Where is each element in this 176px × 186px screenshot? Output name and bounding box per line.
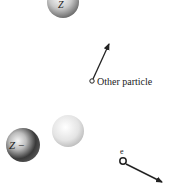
other-particle: Other particle [90, 44, 153, 87]
other-particle-label: Other particle [97, 76, 153, 87]
particle-dot-icon [90, 79, 94, 83]
velocity-arrow-icon [93, 44, 109, 79]
neutral-atom [52, 115, 84, 147]
electron-label: e [120, 147, 124, 156]
electron-dot-icon [120, 158, 126, 164]
electron: e [120, 147, 162, 182]
particle-diagram: Z Other particle Z − e [0, 0, 176, 186]
sphere-icon [52, 115, 84, 147]
nucleus-top-label: Z [58, 0, 64, 10]
velocity-arrow-icon [126, 164, 162, 182]
ion-label: Z − [9, 139, 25, 151]
nucleus-top: Z [47, 0, 79, 18]
ion: Z − [6, 128, 40, 162]
